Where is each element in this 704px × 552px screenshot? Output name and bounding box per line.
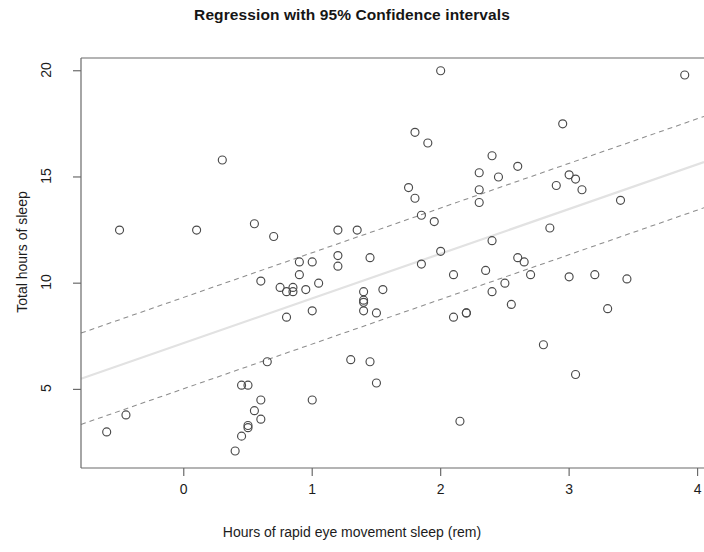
data-point — [315, 279, 323, 287]
data-point — [263, 358, 271, 366]
regression-scatter-plot: Regression with 95% Confidence intervals… — [0, 0, 704, 552]
y-tick-label: 20 — [38, 55, 54, 85]
data-point — [295, 258, 303, 266]
data-point — [257, 396, 265, 404]
data-point — [257, 277, 265, 285]
data-point — [250, 407, 258, 415]
data-point — [501, 279, 509, 287]
data-point — [308, 396, 316, 404]
data-point — [238, 432, 246, 440]
data-point — [308, 307, 316, 315]
data-point — [488, 237, 496, 245]
x-tick-label: 2 — [426, 481, 456, 497]
y-tick-label: 10 — [38, 267, 54, 297]
data-point — [379, 286, 387, 294]
data-point — [572, 175, 580, 183]
axis-frame-and-ticks — [73, 58, 704, 476]
data-point — [604, 305, 612, 313]
data-point — [475, 169, 483, 177]
data-point — [450, 271, 458, 279]
data-point — [103, 428, 111, 436]
data-point — [617, 196, 625, 204]
data-point — [308, 258, 316, 266]
data-point — [411, 128, 419, 136]
confidence-band-lower — [81, 208, 704, 425]
data-point — [334, 262, 342, 270]
y-tick-label: 5 — [38, 373, 54, 403]
data-point — [193, 226, 201, 234]
data-point — [360, 288, 368, 296]
data-point-group — [103, 67, 689, 455]
x-axis-label: Hours of rapid eye movement sleep (rem) — [0, 524, 704, 540]
data-point — [411, 194, 419, 202]
data-point — [302, 286, 310, 294]
data-point — [527, 271, 535, 279]
data-point — [360, 307, 368, 315]
data-point — [116, 226, 124, 234]
data-point — [295, 271, 303, 279]
data-point — [514, 162, 522, 170]
data-point — [366, 254, 374, 262]
data-point — [347, 356, 355, 364]
data-point — [488, 288, 496, 296]
data-point — [507, 300, 515, 308]
data-point — [372, 379, 380, 387]
data-point — [475, 198, 483, 206]
data-point — [257, 415, 265, 423]
data-point — [372, 309, 380, 317]
data-point — [591, 271, 599, 279]
data-point — [565, 273, 573, 281]
x-tick-label: 0 — [169, 481, 199, 497]
data-point — [539, 341, 547, 349]
data-point — [456, 417, 464, 425]
data-point — [488, 152, 496, 160]
x-axis-tick-marks — [184, 468, 698, 476]
plot-canvas — [0, 0, 704, 552]
y-tick-label: 15 — [38, 161, 54, 191]
data-point — [430, 218, 438, 226]
data-point — [546, 224, 554, 232]
x-tick-label: 4 — [683, 481, 704, 497]
data-point — [494, 173, 502, 181]
data-point — [623, 275, 631, 283]
data-point — [353, 226, 361, 234]
data-point — [334, 252, 342, 260]
data-point — [250, 220, 258, 228]
data-point — [231, 447, 239, 455]
x-tick-label: 3 — [554, 481, 584, 497]
y-axis-tick-marks — [73, 71, 81, 390]
plot-frame — [81, 58, 704, 468]
data-point — [520, 258, 528, 266]
data-point — [424, 139, 432, 147]
data-point — [572, 371, 580, 379]
data-point — [437, 67, 445, 75]
x-tick-label: 1 — [297, 481, 327, 497]
data-point — [475, 186, 483, 194]
data-point — [122, 411, 130, 419]
data-point — [334, 226, 342, 234]
y-axis-label: Total hours of sleep — [14, 152, 30, 352]
data-point — [405, 184, 413, 192]
data-point — [450, 313, 458, 321]
data-point — [552, 181, 560, 189]
data-point — [578, 186, 586, 194]
confidence-band-upper — [81, 116, 704, 333]
data-point — [366, 358, 374, 366]
data-point — [462, 309, 470, 317]
regression-line — [81, 162, 704, 379]
data-point — [559, 120, 567, 128]
data-point — [482, 266, 490, 274]
data-point — [270, 232, 278, 240]
data-point — [681, 71, 689, 79]
data-point — [218, 156, 226, 164]
regression-fit-line — [81, 162, 704, 379]
data-point — [283, 313, 291, 321]
